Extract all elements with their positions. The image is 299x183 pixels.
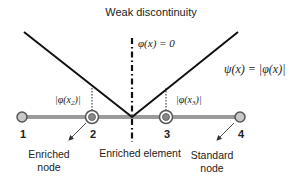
node3-value-text: |φ(x bbox=[176, 94, 193, 106]
enriched-node-marker bbox=[89, 114, 96, 121]
node-4-number: 4 bbox=[238, 128, 245, 140]
node2-value-label: |φ(x2)| bbox=[55, 94, 81, 107]
enriched-node-label-line2: node bbox=[37, 161, 61, 173]
standard-node-label-line1: Standard bbox=[191, 149, 234, 161]
enriched-node-marker bbox=[163, 114, 170, 121]
level-set-label: φ(x) = 0 bbox=[138, 37, 175, 50]
enriched-element-label: Enriched element bbox=[99, 147, 181, 159]
enrichment-function-label: ψ(x) = |φ(x)| bbox=[224, 62, 285, 76]
node2-value-text: |φ(x bbox=[55, 94, 72, 106]
diagram-title: Weak discontinuity bbox=[105, 6, 197, 18]
node-2 bbox=[86, 111, 99, 124]
node-1 bbox=[17, 112, 27, 122]
node3-value-label: |φ(x3)| bbox=[176, 94, 202, 107]
standard-node-label-line2: node bbox=[200, 162, 224, 174]
enriched-node-arrow bbox=[69, 123, 86, 140]
standard-node-marker bbox=[235, 112, 245, 122]
xfem-weak-discontinuity-diagram: Weak discontinuity φ(x) = 0 ψ(x) = |φ(x)… bbox=[0, 0, 299, 183]
node-3 bbox=[160, 111, 173, 124]
node2-value-close: )| bbox=[74, 94, 81, 106]
standard-node-arrow bbox=[217, 123, 234, 140]
node-2-number: 2 bbox=[90, 128, 96, 140]
standard-node-marker bbox=[17, 112, 27, 122]
node3-value-close: )| bbox=[195, 94, 202, 106]
node-3-number: 3 bbox=[164, 128, 170, 140]
enriched-node-label-line1: Enriched bbox=[28, 148, 70, 160]
node-1-number: 1 bbox=[20, 128, 26, 140]
node-4 bbox=[235, 112, 245, 122]
